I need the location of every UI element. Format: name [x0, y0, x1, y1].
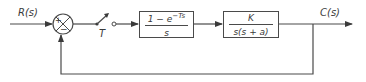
zoh-exponent: −Ts [172, 12, 185, 20]
sampler-switch-icon [95, 13, 116, 26]
output-label: C(s) [320, 7, 340, 18]
input-label: R(s) [18, 7, 38, 18]
zoh-numerator-base: 1 − e [148, 14, 173, 24]
zoh-numerator: 1 − e−Ts [145, 11, 189, 25]
plant-denominator: s(s + a) [233, 25, 268, 37]
zoh-denominator: s [164, 26, 169, 38]
minus-sign: − [60, 24, 68, 34]
plant-numerator: K [245, 13, 257, 24]
block-diagram: R(s) + − T 1 − e−Ts s K s(s + a) C(s) [0, 0, 366, 82]
zoh-block: 1 − e−Ts s [139, 11, 194, 38]
plant-block: K s(s + a) [223, 11, 279, 38]
sampling-period-label: T [99, 28, 105, 39]
